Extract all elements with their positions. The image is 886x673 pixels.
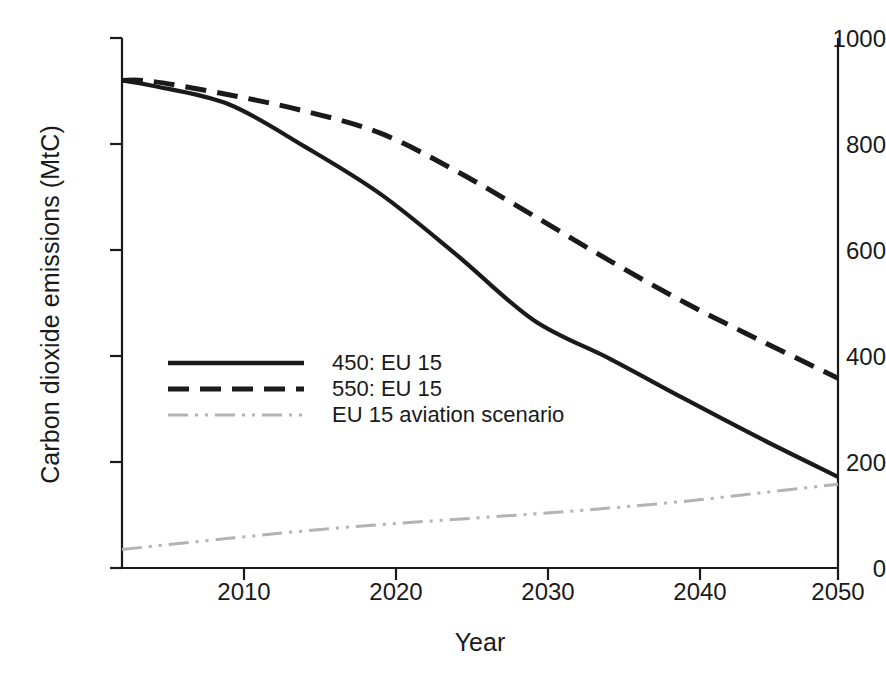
x-tick-label-2030: 2030: [488, 578, 608, 606]
x-tick-label-2010: 2010: [184, 578, 304, 606]
plot-canvas: [0, 0, 886, 673]
y-tick-label-1000: 1000: [782, 25, 886, 53]
y-tick-label-400: 400: [782, 343, 886, 371]
y-tick-label-200: 200: [782, 449, 886, 477]
legend-label-aviation-scenario: EU 15 aviation scenario: [332, 402, 564, 428]
chart-figure: Carbon dioxide emissions (MtC) 1000 800 …: [0, 0, 886, 673]
y-tick-label-800: 800: [782, 131, 886, 159]
legend-label-550-eu15: 550: EU 15: [332, 376, 442, 402]
axis-spines: [122, 38, 838, 568]
series-layer: [122, 80, 838, 549]
y-tick-label-600: 600: [782, 237, 886, 265]
x-tick-label-2020: 2020: [336, 578, 456, 606]
legend-label-450-eu15: 450: EU 15: [332, 350, 442, 376]
legend-swatches: [168, 363, 304, 415]
y-axis-title: Carbon dioxide emissions (MtC): [36, 95, 65, 515]
x-tick-label-2050: 2050: [778, 578, 886, 606]
x-tick-label-2040: 2040: [640, 578, 760, 606]
series-line-550-eu-15: [122, 80, 838, 378]
y-axis-ticks: [110, 38, 122, 568]
series-line-eu-15-aviation-scenario: [122, 484, 838, 549]
x-axis-title: Year: [122, 628, 838, 657]
